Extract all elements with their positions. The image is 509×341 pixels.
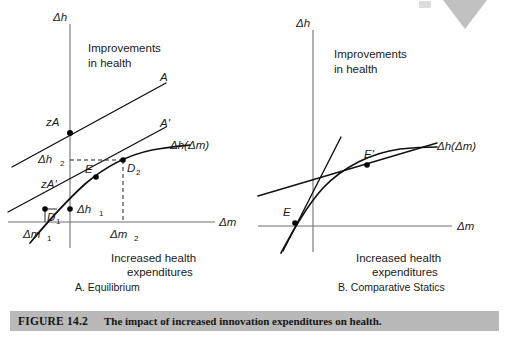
panel-a-graph: Δh Δm Improvements in health A A' Δh(Δm)… <box>8 11 237 293</box>
figure-graphics: Δh Δm Improvements in health A A' Δh(Δm)… <box>0 0 509 341</box>
panel-a-point-zA <box>67 130 73 136</box>
figure-root: Δh Δm Improvements in health A A' Δh(Δm)… <box>0 0 509 341</box>
panel-b-curve-dh-dm <box>281 147 437 253</box>
panel-b-label-E: E <box>283 206 291 218</box>
panel-a-label-Aprime: A' <box>159 117 171 129</box>
panel-a-label-E: E <box>85 163 93 175</box>
panel-a-label-dm1-sub: 1 <box>47 234 52 243</box>
panel-a-point-dh1 <box>67 206 73 212</box>
panel-a-label-zAprime: zA' <box>40 178 57 190</box>
panel-a-title: A. Equilibrium <box>75 281 140 293</box>
panel-a-label-D1: D <box>47 211 55 223</box>
panel-a-note-in-health: in health <box>88 57 131 69</box>
panel-b-note-expenditures: expenditures <box>372 266 438 278</box>
panel-a-label-D2-group: D 2 <box>127 162 141 177</box>
panel-a-label-dm1-group: Δm 1 <box>22 228 52 243</box>
panel-a-label-D2-sub: 2 <box>136 168 141 177</box>
panel-a-label-dm2-group: Δm 2 <box>109 228 139 243</box>
panel-a-label-D1-sub: 1 <box>56 217 61 226</box>
panel-a-label-dm1: Δm <box>22 228 41 240</box>
panel-a-label-A: A <box>159 71 168 83</box>
figure-caption-bar: FIGURE 14.2 The impact of increased inno… <box>10 311 499 331</box>
figure-caption-text: The impact of increased innovation expen… <box>104 315 382 327</box>
panel-a-label-D2: D <box>127 162 135 174</box>
panel-a-point-E <box>93 174 99 180</box>
panel-a-label-D1-group: D 1 <box>47 211 61 226</box>
panel-b-point-E <box>292 220 298 226</box>
panel-a-line-A <box>12 83 166 167</box>
panel-a-point-D2 <box>120 157 126 163</box>
panel-b-label-curve: Δh(Δm) <box>436 140 476 152</box>
panel-b-note-increased-health: Increased health <box>356 252 441 264</box>
panel-a-label-dh1-sub: 1 <box>99 209 104 218</box>
figure-caption-number: FIGURE 14.2 <box>18 315 88 327</box>
panel-a-y-axis-label: Δh <box>52 11 67 23</box>
panel-b-point-Eprime <box>364 162 370 168</box>
panel-a-label-dh2-sub: 2 <box>60 159 65 168</box>
panel-a-label-dh1: Δh <box>76 203 91 215</box>
panel-b-note-in-health: in health <box>334 63 377 75</box>
panel-a-note-improvements: Improvements <box>88 42 161 54</box>
panel-a-label-dh2-group: Δh 2 <box>37 153 65 168</box>
panel-a-label-curve: Δh(Δm) <box>169 139 209 151</box>
panel-a-label-dh2: Δh <box>37 153 52 165</box>
panel-b-y-axis-label: Δh <box>295 17 310 29</box>
panel-b-label-Eprime: E' <box>364 148 375 160</box>
panel-a-note-increased-health: Increased health <box>111 252 196 264</box>
panel-a-label-dm2-sub: 2 <box>134 234 139 243</box>
panel-a-note-expenditures: expenditures <box>127 266 193 278</box>
panel-b-note-improvements: Improvements <box>334 48 407 60</box>
panel-b-x-axis-label: Δm <box>456 220 475 232</box>
panel-b-flat-line <box>258 143 437 196</box>
panel-b-title: B. Comparative Statics <box>338 281 445 293</box>
panel-a-x-axis-label: Δm <box>218 216 237 228</box>
panel-a-label-dm2: Δm <box>109 228 128 240</box>
panel-b-graph: Δh Δm Improvements in health Δh(Δm) E E'… <box>258 17 476 293</box>
panel-a-label-zA: zA <box>45 116 60 128</box>
panel-a-label-dh1-group: Δh 1 <box>76 203 104 218</box>
